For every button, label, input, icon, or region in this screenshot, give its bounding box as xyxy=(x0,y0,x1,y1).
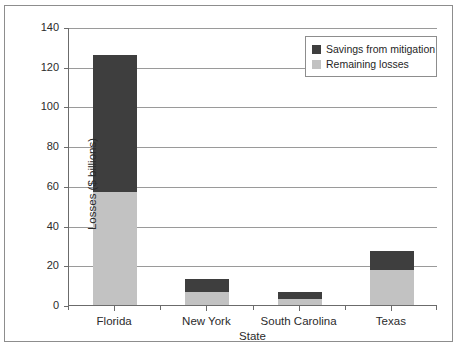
bar-segment-savings-from-mitigation xyxy=(185,279,229,292)
x-axis-division-tick xyxy=(345,306,346,310)
bar-south-carolina[interactable] xyxy=(278,292,322,305)
y-tick-label: 0 xyxy=(27,300,59,311)
y-tick-label: 80 xyxy=(27,141,59,152)
y-tick-label: 100 xyxy=(27,101,59,112)
bar-segment-savings-from-mitigation xyxy=(93,55,137,192)
gridline xyxy=(69,28,437,29)
y-tick-mark xyxy=(64,107,69,108)
x-tick-label-florida: Florida xyxy=(97,315,132,327)
bar-segment-savings-from-mitigation xyxy=(278,292,322,299)
chart-figure: Losses ($ billions) 020406080100120140 F… xyxy=(0,0,463,346)
legend-label-remaining: Remaining losses xyxy=(326,58,409,70)
bar-segment-remaining-losses xyxy=(278,299,322,305)
x-axis-division-tick xyxy=(253,306,254,310)
x-axis-division-tick xyxy=(68,306,69,310)
x-tick-label-new-york: New York xyxy=(182,315,231,327)
bar-texas[interactable] xyxy=(370,251,414,305)
y-tick-label: 40 xyxy=(27,221,59,232)
y-tick-mark xyxy=(64,68,69,69)
y-tick-label: 120 xyxy=(27,62,59,73)
x-tick-mark xyxy=(114,306,115,311)
legend-item-remaining: Remaining losses xyxy=(312,57,430,71)
x-tick-mark xyxy=(391,306,392,311)
x-tick-mark xyxy=(299,306,300,311)
x-axis-division-tick xyxy=(436,306,437,310)
y-tick-label: 20 xyxy=(27,260,59,271)
bar-segment-remaining-losses xyxy=(93,192,137,305)
chart-legend: Savings from mitigation Remaining losses xyxy=(305,36,437,77)
bar-segment-savings-from-mitigation xyxy=(370,251,414,270)
y-tick-mark xyxy=(64,28,69,29)
bar-segment-remaining-losses xyxy=(185,292,229,305)
legend-swatch-savings xyxy=(312,45,321,54)
legend-swatch-remaining xyxy=(312,60,321,69)
x-tick-label-texas: Texas xyxy=(376,315,406,327)
y-tick-label: 60 xyxy=(27,181,59,192)
y-tick-mark xyxy=(64,187,69,188)
legend-label-savings: Savings from mitigation xyxy=(326,43,435,55)
x-axis-division-tick xyxy=(160,306,161,310)
legend-item-savings: Savings from mitigation xyxy=(312,42,430,56)
figure-border: Losses ($ billions) 020406080100120140 F… xyxy=(4,5,453,342)
y-tick-label: 140 xyxy=(27,22,59,33)
bar-florida[interactable] xyxy=(93,55,137,305)
x-tick-mark xyxy=(206,306,207,311)
x-axis-title: State xyxy=(68,330,437,342)
x-tick-label-south-carolina: South Carolina xyxy=(261,315,337,327)
y-tick-mark xyxy=(64,266,69,267)
y-axis-title: Losses ($ billions) xyxy=(86,84,98,284)
bar-segment-remaining-losses xyxy=(370,270,414,305)
y-tick-mark xyxy=(64,147,69,148)
y-tick-mark xyxy=(64,227,69,228)
bar-new-york[interactable] xyxy=(185,279,229,305)
